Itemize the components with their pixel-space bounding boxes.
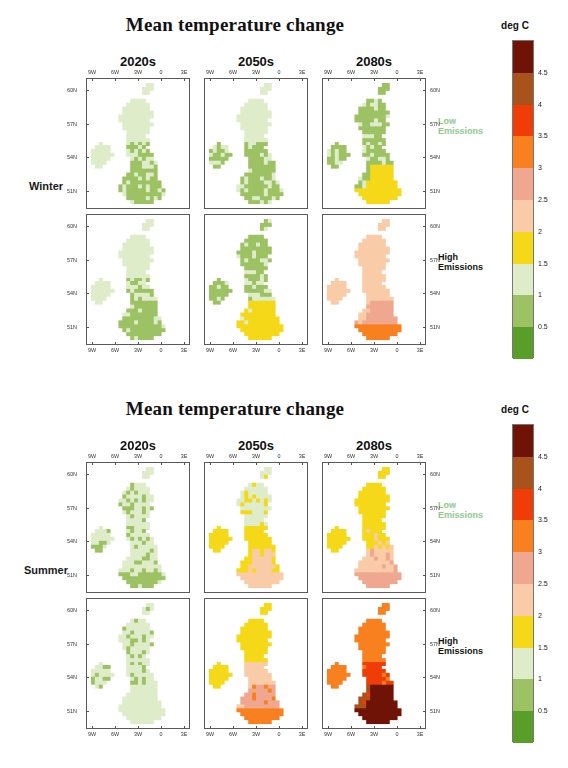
x-axis-tick-label: 6W <box>347 347 355 353</box>
x-axis-tick-label: 0 <box>278 731 281 737</box>
y-axis-tick-label: 60N <box>67 87 77 93</box>
x-axis-tick-label: 3E <box>417 453 424 459</box>
x-axis-tick-label: 9W <box>324 453 332 459</box>
x-axis-tick-label: 3W <box>370 453 378 459</box>
x-axis-tick-label: 6W <box>111 347 119 353</box>
map-panel-winter-low-2050s[interactable] <box>204 78 308 209</box>
map-panel-summer-high-2050s[interactable] <box>204 598 308 729</box>
x-axis-tick-label: 9W <box>206 731 214 737</box>
colorbar-tick-label: 4.5 <box>538 452 548 459</box>
y-axis-tick-label: 54N <box>67 674 77 680</box>
x-axis-tick-label: 6W <box>111 731 119 737</box>
y-tickmark <box>423 191 426 192</box>
x-tickmark <box>279 342 280 345</box>
x-tickmark <box>351 342 352 345</box>
map-canvas <box>87 215 189 344</box>
x-axis-tick-label: 3E <box>299 453 306 459</box>
colorbar-segment <box>513 264 533 296</box>
x-axis-tick-label: 6W <box>347 731 355 737</box>
x-tickmark <box>233 462 234 465</box>
x-tickmark <box>138 342 139 345</box>
colorbar-tick-label: 4 <box>538 484 542 491</box>
y-axis-tick-label: 54N <box>430 290 440 296</box>
colorbar-tick-label: 0.5 <box>538 707 548 714</box>
x-tickmark <box>92 78 93 81</box>
y-axis-tick-label: 54N <box>430 538 440 544</box>
x-axis-tick-label: 0 <box>160 347 163 353</box>
page-title-summer: Mean temperature change <box>0 398 470 420</box>
map-panel-summer-high-2020s[interactable] <box>86 598 190 729</box>
x-axis-tick-label: 9W <box>324 69 332 75</box>
y-axis-tick-label: 60N <box>430 471 440 477</box>
map-panel-summer-high-2080s[interactable] <box>322 598 426 729</box>
colorbar-tick-label: 4 <box>538 100 542 107</box>
y-axis-tick-label: 54N <box>430 154 440 160</box>
map-canvas <box>205 599 307 728</box>
y-axis-tick-label: 57N <box>67 121 77 127</box>
y-axis-tick-label: 51N <box>430 188 440 194</box>
x-tickmark <box>420 78 421 81</box>
colorbar-title: deg C <box>501 404 529 415</box>
colorbar-tick-label: 1 <box>538 291 542 298</box>
y-axis-tick-label: 57N <box>430 505 440 511</box>
x-tickmark <box>397 726 398 729</box>
x-tickmark <box>210 78 211 81</box>
x-axis-tick-label: 9W <box>88 731 96 737</box>
x-tickmark <box>210 462 211 465</box>
x-axis-tick-label: 6W <box>347 453 355 459</box>
x-tickmark <box>115 726 116 729</box>
colorbar-segment <box>513 584 533 616</box>
map-panel-winter-high-2080s[interactable] <box>322 214 426 345</box>
x-tickmark <box>302 726 303 729</box>
x-axis-tick-label: 3W <box>252 347 260 353</box>
x-axis-tick-label: 0 <box>396 731 399 737</box>
y-tickmark <box>423 474 426 475</box>
y-tickmark <box>423 260 426 261</box>
x-tickmark <box>397 342 398 345</box>
map-panel-winter-low-2020s[interactable] <box>86 78 190 209</box>
figure-summer: Mean temperature change Summer 2020s2050… <box>0 384 568 768</box>
map-panel-summer-low-2050s[interactable] <box>204 462 308 593</box>
x-tickmark <box>138 462 139 465</box>
map-canvas <box>323 463 425 592</box>
colorbar-segment <box>513 327 533 359</box>
x-tickmark <box>161 462 162 465</box>
colorbar-tick-label: 3.5 <box>538 516 548 523</box>
y-axis-tick-label: 54N <box>67 290 77 296</box>
x-axis-tick-label: 0 <box>160 731 163 737</box>
y-axis-tick-label: 60N <box>430 223 440 229</box>
x-tickmark <box>256 342 257 345</box>
x-tickmark <box>351 78 352 81</box>
colorbar-segment <box>513 679 533 711</box>
y-tickmark <box>423 541 426 542</box>
map-panel-summer-low-2080s[interactable] <box>322 462 426 593</box>
y-axis-tick-label: 60N <box>67 607 77 613</box>
x-tickmark <box>328 78 329 81</box>
colorbar-segment <box>513 457 533 489</box>
x-axis-tick-label: 3E <box>299 731 306 737</box>
colorbar-scale[interactable] <box>512 40 534 358</box>
map-panel-winter-low-2080s[interactable] <box>322 78 426 209</box>
x-tickmark <box>184 78 185 81</box>
x-axis-tick-label: 9W <box>324 731 332 737</box>
x-tickmark <box>302 78 303 81</box>
colorbar-segment <box>513 73 533 105</box>
x-tickmark <box>256 78 257 81</box>
colorbar-scale[interactable] <box>512 424 534 742</box>
x-tickmark <box>92 342 93 345</box>
colorbar-segment <box>513 136 533 168</box>
x-axis-tick-label: 0 <box>396 69 399 75</box>
x-axis-tick-label: 3E <box>181 69 188 75</box>
x-axis-tick-label: 3W <box>134 69 142 75</box>
emissions-label-high: High Emissions <box>438 252 483 273</box>
y-tickmark <box>423 293 426 294</box>
map-panel-winter-high-2050s[interactable] <box>204 214 308 345</box>
y-tickmark <box>86 474 89 475</box>
colorbar-tick-label: 1 <box>538 675 542 682</box>
map-panel-winter-high-2020s[interactable] <box>86 214 190 345</box>
colorbar-tick-label: 1.5 <box>538 643 548 650</box>
x-tickmark <box>138 78 139 81</box>
x-tickmark <box>374 342 375 345</box>
map-panel-summer-low-2020s[interactable] <box>86 462 190 593</box>
x-tickmark <box>115 342 116 345</box>
